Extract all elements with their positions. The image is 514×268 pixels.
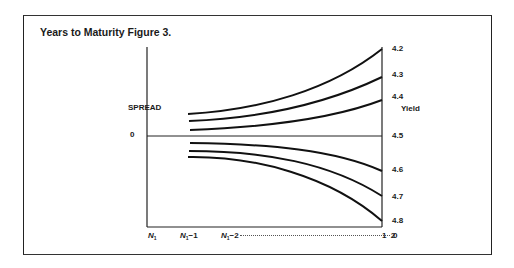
curve-4-4 bbox=[190, 100, 382, 130]
curve-4-2 bbox=[188, 49, 382, 114]
y-tick-4-2: 4.2 bbox=[392, 44, 403, 53]
y-tick-4-8: 4.8 bbox=[392, 216, 403, 225]
x-tick-n1: N1 bbox=[148, 231, 157, 240]
dotted-ellipsis bbox=[240, 235, 390, 236]
x-tick-0: 0 bbox=[393, 231, 397, 240]
y-tick-4-3: 4.3 bbox=[392, 70, 403, 79]
x-tick-n1-minus-1: N1−1 bbox=[180, 231, 198, 240]
curve-4-8 bbox=[188, 157, 382, 221]
y-tick-4-4: 4.4 bbox=[392, 92, 403, 101]
y-tick-4-7: 4.7 bbox=[392, 192, 403, 201]
yield-label: Yield bbox=[401, 104, 420, 113]
curve-4-3 bbox=[189, 77, 382, 121]
x-tick-n1-minus-2: N1−22 bbox=[221, 231, 395, 240]
y-tick-4-6: 4.6 bbox=[392, 165, 403, 174]
y-tick-4-5: 4.5 bbox=[392, 131, 403, 140]
plot-area bbox=[0, 0, 514, 268]
spread-label: SPREAD bbox=[128, 103, 161, 112]
x-tick-1: 1 bbox=[382, 231, 386, 240]
zero-label: 0 bbox=[130, 130, 134, 139]
